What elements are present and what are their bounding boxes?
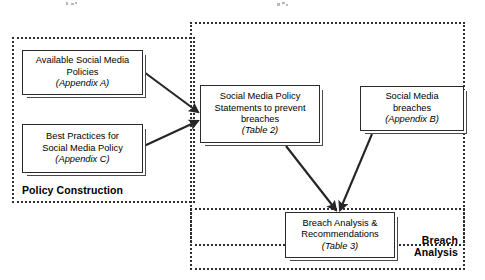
scan-speck: [66, 2, 68, 5]
region-label-breach-analysis: Breach Analysis: [398, 234, 458, 258]
scan-speck: [75, 2, 77, 4]
node-social-media-policy-statements: Social Media PolicyStatements to prevent…: [200, 85, 320, 143]
node-text-line: Best Practices for: [46, 131, 119, 142]
node-breach-analysis-recommendations: Breach Analysis &Recommendations(Table 3…: [285, 212, 395, 258]
scan-speck: [277, 3, 280, 6]
node-text-line: Social Media: [385, 91, 438, 102]
node-text-line: Policies: [66, 67, 98, 78]
node-source-reference: (Table 2): [242, 125, 278, 136]
node-text-line: Recommendations: [301, 229, 379, 240]
node-source-reference: (Appendix C): [55, 154, 109, 165]
node-text-line: Available Social Media: [36, 55, 129, 66]
node-source-reference: (Table 3): [322, 241, 358, 252]
diagram-canvas: Policy ConstructionBreach Analysis Avail…: [0, 0, 485, 280]
node-text-line: breaches: [393, 103, 431, 114]
node-available-social-media-policies: Available Social MediaPolicies(Appendix …: [22, 50, 143, 95]
scan-speck: [71, 3, 74, 5]
region-label-policy-construction: Policy Construction: [22, 184, 172, 196]
node-source-reference: (Appendix A): [56, 78, 109, 89]
node-text-line: Social Media Policy: [42, 143, 123, 154]
node-social-media-breaches: Social Mediabreaches(Appendix B): [360, 86, 464, 131]
scan-speck: [282, 2, 285, 4]
node-text-line: breaches: [241, 114, 279, 125]
node-text-line: Social Media Policy: [220, 91, 301, 102]
node-text-line: Statements to prevent: [215, 103, 306, 114]
node-source-reference: (Appendix B): [385, 114, 439, 125]
node-text-line: Breach Analysis &: [303, 218, 378, 229]
node-best-practices-for-social-media-policy: Best Practices forSocial Media Policy(Ap…: [22, 124, 143, 173]
scan-speck: [286, 4, 288, 6]
